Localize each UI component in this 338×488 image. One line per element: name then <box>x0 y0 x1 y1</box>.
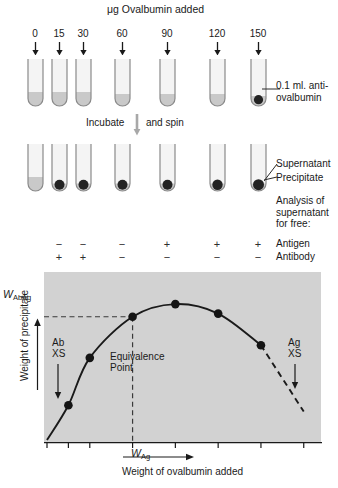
sign-antibody-60: − <box>115 251 129 263</box>
precipitate-pellet <box>54 180 64 190</box>
dose-label-90: 90 <box>152 28 182 40</box>
tube-after-120 <box>208 143 227 195</box>
data-point <box>128 312 137 321</box>
precipitin-curve-chart <box>44 272 321 442</box>
dose-arrow-icon <box>79 42 88 55</box>
tube-before-15 <box>50 58 69 110</box>
precipitate-label: Precipitate <box>276 172 323 184</box>
sign-antigen-15: − <box>52 238 66 250</box>
antigen-row-label: Antigen <box>276 238 310 250</box>
precipitate-pellet <box>117 180 127 190</box>
sign-antigen-30: − <box>76 238 90 250</box>
anti-ovalbumin-label-line1: 0.1 ml. anti- <box>276 80 328 92</box>
data-point <box>171 300 180 309</box>
sign-antibody-90: − <box>160 251 174 263</box>
anti-ovalbumin-label-line2: ovalbumin <box>276 92 328 104</box>
x-axis-ticks <box>44 442 322 452</box>
tube-before-0 <box>26 58 45 110</box>
equivalence-point-label: Equivalence Point <box>110 352 164 374</box>
tube-after-30 <box>74 143 93 195</box>
analysis-heading-line3: for free: <box>276 218 329 230</box>
dose-arrow-icon <box>254 42 263 55</box>
antibody-excess-line2: XS <box>52 349 65 360</box>
precipitin-reaction-figure: μg Ovalbumin added 015306090120150 0.1 m… <box>0 0 338 488</box>
analysis-heading: Analysis of supernatant for free: <box>276 195 329 230</box>
antigen-excess-label: Ag XS <box>288 338 301 360</box>
w-ag-subscript: Ag <box>141 452 150 461</box>
dose-arrow-icon <box>163 42 172 55</box>
sign-antibody-15: + <box>52 251 66 263</box>
and-spin-label: and spin <box>146 117 184 129</box>
tube-after-90 <box>158 143 177 195</box>
dose-arrow-icon <box>55 42 64 55</box>
data-point <box>64 401 73 410</box>
antibody-excess-arrow-icon <box>55 364 61 399</box>
sign-antigen-120: + <box>210 238 224 250</box>
data-point <box>85 354 94 363</box>
w-abag-label: WAbAg <box>3 288 31 300</box>
anti-ovalbumin-label: 0.1 ml. anti- ovalbumin <box>276 80 328 103</box>
data-point <box>257 341 266 350</box>
tube-after-0 <box>26 143 45 195</box>
dose-arrow-icon <box>118 42 127 55</box>
analysis-heading-line1: Analysis of <box>276 195 329 207</box>
sign-antibody-30: + <box>76 251 90 263</box>
sign-antigen-60: − <box>115 238 129 250</box>
sign-antigen-90: + <box>160 238 174 250</box>
sign-antibody-120: − <box>210 251 224 263</box>
antibody-excess-label: Ab XS <box>52 338 65 360</box>
data-point <box>214 309 223 318</box>
sign-antigen-150: + <box>251 238 265 250</box>
analysis-heading-line2: supernatant <box>276 207 329 219</box>
tube-after-15 <box>50 143 69 195</box>
dose-label-120: 120 <box>202 28 232 40</box>
dose-arrow-icon <box>213 42 222 55</box>
precipitate-pellet <box>212 180 222 190</box>
tube-before-90 <box>158 58 177 110</box>
precipitate-pellet <box>78 180 88 190</box>
antigen-excess-arrow-icon <box>292 364 298 389</box>
precipitate-pellet <box>253 95 262 104</box>
tube-before-120 <box>208 58 227 110</box>
precipitate-pellet <box>253 179 264 190</box>
spin-arrow-icon <box>133 114 141 136</box>
w-abag-subscript: AbAg <box>13 293 31 302</box>
tube-before-60 <box>113 58 132 110</box>
dose-label-30: 30 <box>68 28 98 40</box>
dose-arrow-icon <box>31 42 40 55</box>
equivalence-point-line2: Point <box>110 363 164 374</box>
w-ag-label: WAg <box>131 447 150 459</box>
antibody-row-label: Antibody <box>276 251 315 263</box>
x-axis-label: Weight of ovalbumin added <box>122 466 243 477</box>
tube-after-60 <box>113 143 132 195</box>
supernatant-label: Supernatant <box>276 158 331 170</box>
incubate-label: Incubate <box>86 117 124 129</box>
y-axis-direction-arrow-icon <box>33 318 42 390</box>
dose-label-60: 60 <box>107 28 137 40</box>
antigen-excess-line2: XS <box>288 349 301 360</box>
chart-plot-svg <box>44 272 321 442</box>
tube-before-150 <box>249 58 268 110</box>
dose-label-150: 150 <box>243 28 273 40</box>
sign-antibody-150: − <box>251 251 265 263</box>
figure-title: μg Ovalbumin added <box>107 3 204 15</box>
precipitate-pellet <box>162 180 172 190</box>
tube-before-30 <box>74 58 93 110</box>
